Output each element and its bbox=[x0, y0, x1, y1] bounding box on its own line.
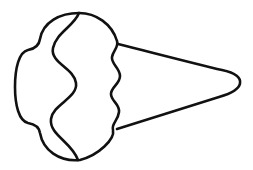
line-drawing-canvas bbox=[0, 0, 253, 170]
ice-cream-cone-drawing bbox=[0, 0, 253, 170]
